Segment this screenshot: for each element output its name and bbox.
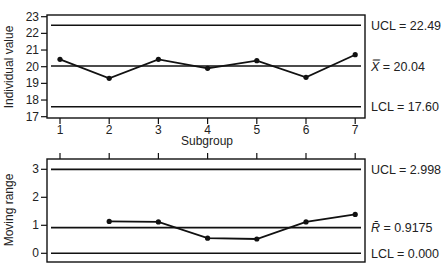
moving-range-chart: 0123UCL = 2.998R̄ = 0.9175LCL = 0.000: [32, 153, 441, 262]
control-label-lcl: LCL = 17.60: [371, 100, 439, 114]
center-symbol: R̄: [371, 221, 380, 235]
data-point: [156, 219, 161, 224]
x-tick-label: 1: [57, 123, 64, 137]
y-tick-label: 20: [26, 60, 40, 74]
y-tick-label: 17: [26, 110, 40, 124]
center-value: = 20.04: [379, 60, 425, 74]
data-point: [254, 58, 259, 63]
control-label-lcl: LCL = 0.000: [371, 247, 439, 261]
x-tick-label: 7: [352, 123, 359, 137]
x-tick-label: 6: [303, 123, 310, 137]
y-tick-label: 0: [32, 246, 39, 260]
y-tick-label: 3: [32, 162, 39, 176]
data-point: [156, 57, 161, 62]
y-tick-label: 1: [32, 218, 39, 232]
data-point: [353, 212, 358, 217]
x-tick-label: 2: [106, 123, 113, 137]
control-chart: 171819202122231234567UCL = 22.49X̿ = 20.…: [0, 0, 443, 272]
control-label-ucl: UCL = 22.49: [371, 19, 441, 33]
control-label-ucl: UCL = 2.998: [371, 163, 441, 177]
individuals-chart: 171819202122231234567UCL = 22.49X̿ = 20.…: [26, 10, 441, 137]
control-label-center: X̿ = 20.04: [370, 59, 425, 74]
data-point: [303, 75, 308, 80]
data-point: [205, 66, 210, 71]
plot-frame: [47, 159, 365, 262]
control-label-center: R̄ = 0.9175: [371, 221, 433, 235]
y-axis-label-individual: Individual value: [2, 25, 16, 108]
data-point: [107, 76, 112, 81]
x-tick-label: 5: [253, 123, 260, 137]
y-tick-label: 19: [26, 76, 40, 90]
data-point: [353, 52, 358, 57]
data-point: [107, 219, 112, 224]
data-point: [254, 236, 259, 241]
data-point: [303, 219, 308, 224]
data-point: [205, 236, 210, 241]
y-tick-label: 21: [26, 43, 40, 57]
center-value: = 0.9175: [380, 221, 433, 235]
y-tick-label: 2: [32, 190, 39, 204]
y-tick-label: 18: [26, 93, 40, 107]
y-tick-label: 22: [26, 26, 40, 40]
x-axis-label: Subgroup: [181, 134, 233, 148]
x-tick-label: 3: [155, 123, 162, 137]
data-point: [57, 57, 62, 62]
y-axis-label-moving-range: Moving range: [2, 173, 16, 246]
series-line: [109, 214, 355, 239]
y-tick-label: 23: [26, 10, 40, 24]
